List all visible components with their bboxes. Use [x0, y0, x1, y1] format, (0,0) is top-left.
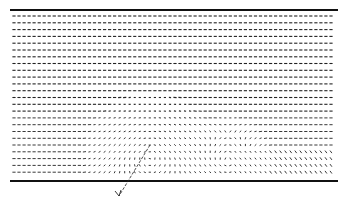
velocity-vectors: [12, 16, 332, 174]
pointer-arrow-icon: [115, 190, 121, 196]
vector-field-figure: [0, 0, 346, 203]
